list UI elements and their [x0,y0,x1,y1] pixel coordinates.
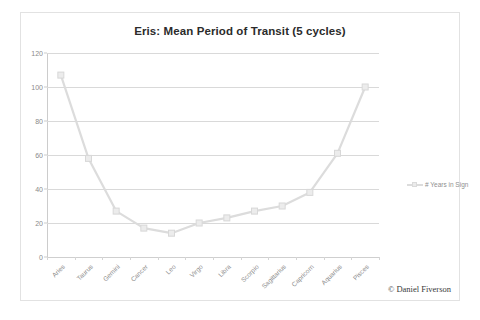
y-tick-label-120: 120 [31,50,43,57]
y-tick-label-60: 60 [35,152,43,159]
data-point-pisces [362,84,368,90]
plot-area: 020406080100120 AriesTaurusGeminiCancerL… [47,53,379,257]
data-point-capricorn [307,189,313,195]
chart-title: Eris: Mean Period of Transit (5 cycles) [21,25,459,37]
y-tick-label-100: 100 [31,84,43,91]
legend-label-years-in-sign: # Years in Sign [425,181,468,188]
chart-legend: # Years in Sign [407,181,468,188]
data-point-aquarius [335,150,341,156]
data-point-leo [169,230,175,236]
legend-marker-icon [407,181,423,188]
y-tick-label-80: 80 [35,118,43,125]
data-point-cancer [141,225,147,231]
line-series-years-in-sign [47,53,379,257]
data-point-scorpio [252,208,258,214]
y-tick-label-40: 40 [35,186,43,193]
data-point-virgo [196,220,202,226]
data-point-sagittarius [279,203,285,209]
data-point-aries [58,72,64,78]
data-point-taurus [86,155,92,161]
data-point-gemini [113,208,119,214]
chart-container: Eris: Mean Period of Transit (5 cycles) … [20,12,460,301]
data-point-libra [224,215,230,221]
attribution-text: © Daniel Fiverson [388,284,451,294]
y-tick-label-0: 0 [39,254,43,261]
x-tick-mark [185,257,186,260]
series-line [61,75,365,233]
y-tick-label-20: 20 [35,220,43,227]
x-tick-mark [47,257,48,260]
